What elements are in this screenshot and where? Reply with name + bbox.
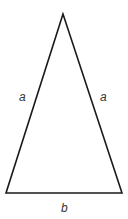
right-side-label: a (100, 90, 107, 104)
left-side-label: a (19, 90, 26, 104)
base-label: b (61, 201, 68, 215)
triangle-diagram: a a b (0, 0, 128, 219)
